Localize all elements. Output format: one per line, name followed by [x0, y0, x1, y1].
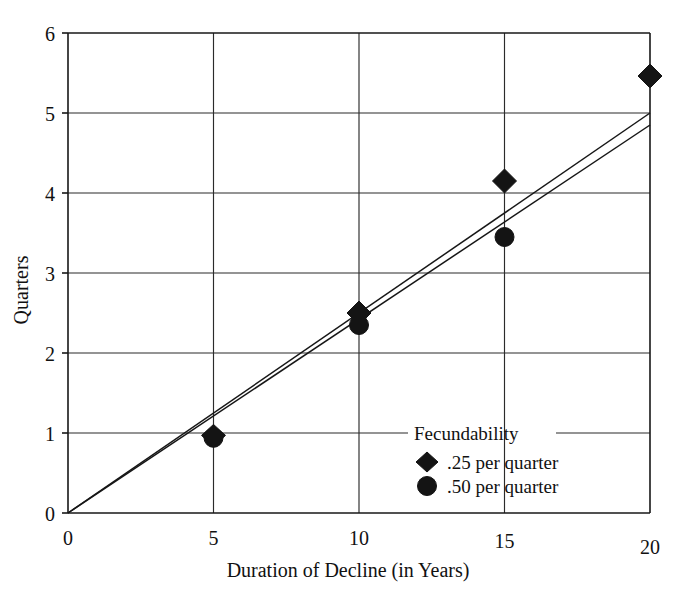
x-tick-label-0: 0	[63, 527, 73, 549]
legend-title: Fecundability	[414, 423, 519, 444]
x-tick-label-10: 10	[349, 527, 369, 549]
scatter-chart: 6 5 4 3 2 1 0 Quarters 0 5 10 15 20 Dura…	[0, 0, 686, 593]
y-tick-label-0: 0	[45, 503, 55, 525]
y-axis-title: Quarters	[10, 255, 32, 324]
data-point	[495, 228, 514, 247]
y-tick-label-3: 3	[45, 263, 55, 285]
y-tick-label-1: 1	[45, 423, 55, 445]
chart-background	[0, 0, 686, 593]
legend-marker-circle	[418, 477, 437, 496]
x-tick-label-20: 20	[640, 536, 660, 558]
x-axis-title: Duration of Decline (in Years)	[227, 559, 470, 582]
chart-figure: 6 5 4 3 2 1 0 Quarters 0 5 10 15 20 Dura…	[0, 0, 686, 593]
y-tick-label-4: 4	[45, 183, 55, 205]
x-tick-label-5: 5	[209, 527, 219, 549]
y-tick-label-5: 5	[45, 103, 55, 125]
legend-label-050: .50 per quarter	[447, 476, 559, 497]
y-tick-label-2: 2	[45, 343, 55, 365]
legend-label-025: .25 per quarter	[447, 452, 559, 473]
x-tick-label-15: 15	[495, 530, 515, 552]
y-tick-label-6: 6	[45, 23, 55, 45]
